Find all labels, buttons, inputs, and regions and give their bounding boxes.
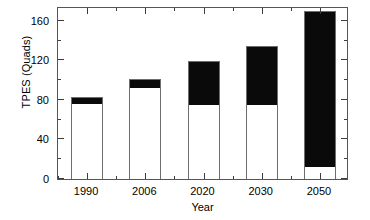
y-tick-major-160 [58,20,64,21]
x-tick-major-top-2020 [204,8,205,14]
bar-black-segment-2050 [305,12,335,167]
y-tick-minor-right-60 [344,119,347,120]
x-tick-major-top-2030 [262,8,263,14]
y-tick-minor-right-20 [344,158,347,159]
bar-2006 [129,79,161,179]
y-tick-major-right-40 [341,138,347,139]
x-tick-minor-top-0 [116,8,117,11]
bar-black-segment-2006 [130,80,160,88]
y-tick-major-right-120 [341,59,347,60]
x-tick-major-2020 [204,173,205,179]
y-tick-major-right-0 [341,178,347,179]
bar-2030 [246,46,278,179]
y-tick-minor-60 [58,119,61,120]
bar-black-segment-2020 [189,62,219,105]
y-tick-minor-right-100 [344,79,347,80]
x-tick-label-2006: 2006 [114,185,174,197]
bar-2050 [304,11,336,179]
y-tick-major-80 [58,99,64,100]
x-axis-title: Year [57,201,348,213]
x-tick-minor-0 [116,176,117,179]
x-tick-major-top-2006 [145,8,146,14]
y-tick-major-120 [58,59,64,60]
x-tick-label-1990: 1990 [56,185,116,197]
plot-area [57,7,348,180]
y-tick-major-right-160 [341,20,347,21]
bar-2020 [188,61,220,179]
bar-chart: TPES (Quads) Year 0408012016019902006202… [0,0,370,220]
y-tick-label-120: 120 [9,55,49,66]
y-tick-major-40 [58,138,64,139]
x-tick-minor-top-3 [291,8,292,11]
x-tick-minor-top-2 [233,8,234,11]
x-tick-label-2020: 2020 [173,185,233,197]
x-tick-major-1990 [87,173,88,179]
x-tick-minor-1 [174,176,175,179]
y-tick-major-right-80 [341,99,347,100]
y-tick-minor-20 [58,158,61,159]
x-tick-major-top-2050 [320,8,321,14]
x-tick-major-2030 [262,173,263,179]
y-tick-label-160: 160 [9,16,49,27]
x-tick-label-2050: 2050 [289,185,349,197]
y-tick-label-0: 0 [9,174,49,185]
x-tick-minor-2 [233,176,234,179]
x-tick-minor-top-1 [174,8,175,11]
bar-black-segment-2030 [247,47,277,105]
y-tick-minor-140 [58,40,61,41]
bar-1990 [71,97,103,179]
x-tick-major-top-1990 [87,8,88,14]
bar-black-segment-1990 [72,98,102,104]
y-tick-minor-right-140 [344,40,347,41]
x-tick-label-2030: 2030 [231,185,291,197]
x-tick-major-2050 [320,173,321,179]
y-tick-label-40: 40 [9,134,49,145]
y-tick-label-80: 80 [9,95,49,106]
x-tick-minor-3 [291,176,292,179]
x-tick-minor-start [58,176,59,179]
y-tick-minor-100 [58,79,61,80]
x-tick-major-2006 [145,173,146,179]
